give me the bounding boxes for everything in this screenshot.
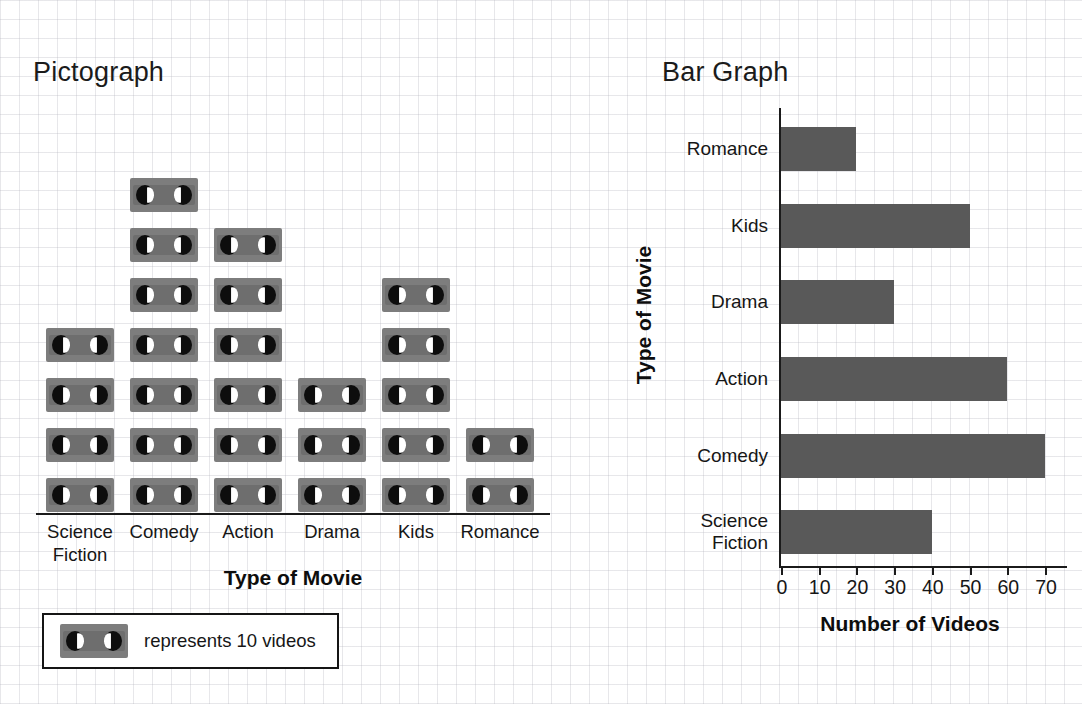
cassette-reel-right: [174, 335, 192, 355]
pictograph-column: [206, 228, 290, 512]
cassette-hub-right: [258, 387, 269, 402]
cassette-reel-right: [426, 485, 444, 505]
cassette-hub-right: [258, 437, 269, 452]
cassette-hub-left: [143, 437, 154, 452]
cassette-hub-left: [143, 337, 154, 352]
cassette-reel-right: [90, 485, 108, 505]
cassette-hub-right: [258, 487, 269, 502]
bar-graph-x-tick-label: 30: [875, 576, 915, 599]
cassette-hub-left: [395, 337, 406, 352]
vhs-cassette-icon: [214, 278, 282, 312]
cassette-hub-right: [90, 387, 101, 402]
cassette-hub-right: [90, 487, 101, 502]
cassette-hub-left: [311, 487, 322, 502]
cassette-hub-left: [227, 487, 238, 502]
bar-graph-x-tick-label: 10: [800, 576, 840, 599]
cassette-reel-right: [258, 335, 276, 355]
bar-graph-bar: [781, 280, 894, 324]
pictograph-chart: Pictograph ScienceFictionComedyActionDra…: [0, 0, 600, 704]
cassette-reel-right: [258, 435, 276, 455]
cassette-hub-left: [143, 287, 154, 302]
bar-graph-chart: Bar Graph Type of Movie RomanceKidsDrama…: [600, 0, 1082, 704]
cassette-reel-right: [258, 385, 276, 405]
bar-graph-title: Bar Graph: [662, 57, 788, 88]
pictograph-category-label: Drama: [285, 520, 379, 543]
bar-graph-x-tick-label: 60: [988, 576, 1028, 599]
bar-graph-row: Drama: [600, 264, 1082, 341]
vhs-cassette-icon: [214, 478, 282, 512]
cassette-reel-right: [342, 485, 360, 505]
cassette-hub-right: [510, 487, 521, 502]
cassette-hub-right: [104, 633, 115, 648]
cassette-hub-left: [73, 633, 84, 648]
cassette-reel-right: [426, 435, 444, 455]
cassette-hub-right: [258, 337, 269, 352]
pictograph-column: [290, 378, 374, 512]
cassette-hub-left: [227, 337, 238, 352]
pictograph-legend-text: represents 10 videos: [144, 630, 316, 652]
cassette-reel-right: [426, 385, 444, 405]
cassette-hub-left: [59, 387, 70, 402]
cassette-hub-left: [395, 437, 406, 452]
cassette-reel-right: [174, 435, 192, 455]
cassette-hub-right: [510, 437, 521, 452]
cassette-hub-right: [174, 437, 185, 452]
bar-graph-bar: [781, 357, 1007, 401]
bar-graph-row: Romance: [600, 111, 1082, 188]
bar-graph-x-tick-label: 50: [951, 576, 991, 599]
cassette-reel-right: [258, 235, 276, 255]
bar-graph-x-tick: [856, 566, 858, 575]
cassette-hub-right: [174, 237, 185, 252]
pictograph-column: [38, 328, 122, 512]
pictograph-xaxis-title: Type of Movie: [36, 566, 550, 590]
bar-graph-xaxis-title: Number of Videos: [740, 612, 1080, 636]
pictograph-plot-area: [36, 100, 560, 512]
vhs-cassette-icon: [46, 378, 114, 412]
bar-graph-x-tick: [819, 566, 821, 575]
cassette-reel-right: [174, 185, 192, 205]
bar-graph-bar: [781, 510, 932, 554]
vhs-cassette-icon: [382, 278, 450, 312]
cassette-reel-right: [342, 385, 360, 405]
bar-graph-category-label: Romance: [600, 138, 768, 160]
cassette-hub-right: [174, 287, 185, 302]
pictograph-category-labels: ScienceFictionComedyActionDramaKidsRoman…: [36, 520, 560, 570]
pictograph-category-label: Kids: [369, 520, 463, 543]
pictograph-column: [458, 428, 542, 512]
cassette-hub-left: [395, 287, 406, 302]
cassette-hub-left: [227, 387, 238, 402]
cassette-reel-right: [90, 385, 108, 405]
vhs-cassette-icon: [214, 378, 282, 412]
cassette-reel-right: [258, 485, 276, 505]
cassette-hub-right: [258, 287, 269, 302]
cassette-hub-right: [426, 387, 437, 402]
vhs-cassette-icon: [46, 328, 114, 362]
vhs-cassette-icon: [130, 278, 198, 312]
cassette-hub-right: [90, 437, 101, 452]
cassette-reel-right: [510, 485, 528, 505]
cassette-reel-right: [510, 435, 528, 455]
cassette-hub-right: [342, 387, 353, 402]
cassette-hub-left: [311, 387, 322, 402]
bar-graph-row: Kids: [600, 188, 1082, 265]
cassette-reel-right: [174, 235, 192, 255]
vhs-cassette-icon: [382, 328, 450, 362]
bar-graph-x-tick: [932, 566, 934, 575]
cassette-reel-right: [104, 631, 122, 651]
bar-graph-row: ScienceFiction: [600, 494, 1082, 571]
cassette-hub-left: [59, 487, 70, 502]
cassette-hub-left: [311, 437, 322, 452]
cassette-hub-right: [174, 337, 185, 352]
bar-graph-x-tick-label: 70: [1026, 576, 1066, 599]
cassette-hub-left: [479, 437, 490, 452]
bar-graph-category-label: Kids: [600, 215, 768, 237]
cassette-hub-right: [426, 487, 437, 502]
vhs-cassette-icon: [130, 328, 198, 362]
cassette-hub-right: [258, 237, 269, 252]
cassette-hub-right: [174, 487, 185, 502]
cassette-hub-left: [143, 387, 154, 402]
vhs-cassette-icon: [214, 428, 282, 462]
cassette-reel-right: [258, 285, 276, 305]
vhs-cassette-icon: [46, 478, 114, 512]
vhs-cassette-icon: [214, 228, 282, 262]
